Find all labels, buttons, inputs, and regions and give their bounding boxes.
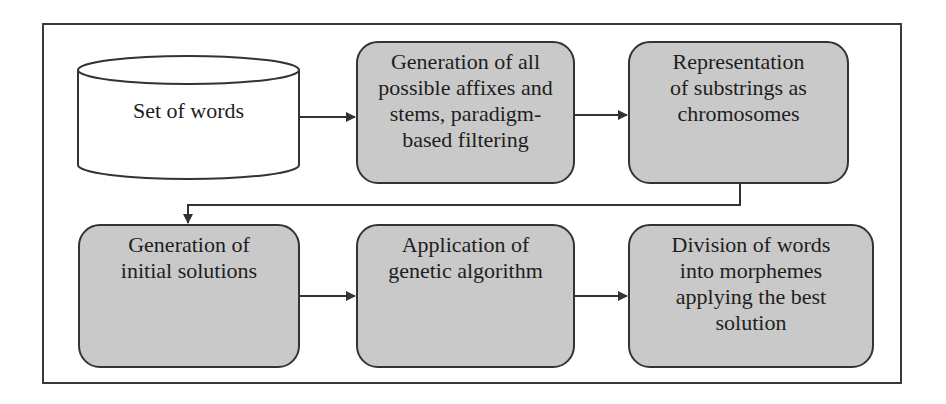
node-text: possible affixes and <box>358 75 573 101</box>
node-text: Representation <box>630 49 847 75</box>
node-division: Division of words into morphemes applyin… <box>628 224 874 368</box>
node-text: Division of words <box>630 232 872 258</box>
node-text: based filtering <box>358 127 573 153</box>
node-initial-solutions: Generation of initial solutions <box>78 224 300 368</box>
node-generation-affixes: Generation of all possible affixes and s… <box>356 41 575 184</box>
node-text: Generation of all <box>358 49 573 75</box>
node-text: chromosomes <box>630 101 847 127</box>
node-text: initial solutions <box>80 258 298 284</box>
node-text: Generation of <box>80 232 298 258</box>
node-set-of-words: Set of words <box>78 98 299 124</box>
node-representation: Representation of substrings as chromoso… <box>628 41 849 184</box>
node-text: applying the best <box>630 284 872 310</box>
arrow-3 <box>188 183 740 223</box>
node-text: solution <box>630 310 872 336</box>
node-text: genetic algorithm <box>358 258 573 284</box>
node-genetic-algorithm: Application of genetic algorithm <box>356 224 575 368</box>
node-text: stems, paradigm- <box>358 101 573 127</box>
node-text: Application of <box>358 232 573 258</box>
node-text: of substrings as <box>630 75 847 101</box>
node-text: into morphemes <box>630 258 872 284</box>
